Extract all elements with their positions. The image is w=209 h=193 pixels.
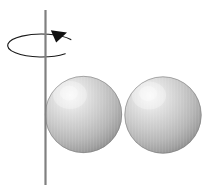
figure-canvas: Two spheres rotating about a vertical ax… — [0, 0, 209, 193]
rotation-diagram: Two spheres rotating about a vertical ax… — [0, 0, 209, 193]
